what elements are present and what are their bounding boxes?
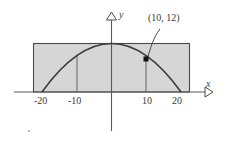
x-axis-label: x (206, 79, 210, 89)
data-point-marker (144, 57, 149, 62)
x-tick-label-20: 20 (172, 96, 182, 106)
parabola-figure: -20 -10 10 20 y x (10, 12) (0, 0, 226, 143)
scan-artifact-speck (28, 130, 30, 132)
data-point-label: (10, 12) (148, 13, 180, 23)
x-tick-label-minus20: -20 (34, 96, 47, 106)
x-tick-label-10: 10 (142, 96, 152, 106)
figure-canvas (0, 0, 226, 143)
y-axis-arrowhead-icon (107, 12, 117, 20)
x-tick-label-minus10: -10 (68, 96, 81, 106)
y-axis-label: y (119, 10, 123, 20)
